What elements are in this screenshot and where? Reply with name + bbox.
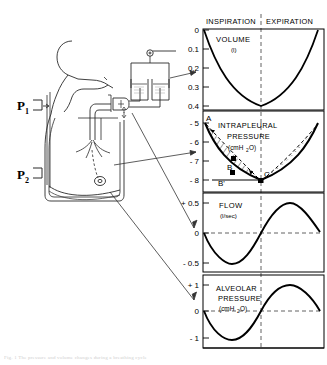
panel-intrapleural-title-1: INTRAPLEURAL xyxy=(218,121,277,130)
trachea-2 xyxy=(95,110,111,140)
panel-flow: + 0.5 0 - 0.5 FLOW (l/sec) xyxy=(181,193,324,272)
tick-label-v02: 0.2 xyxy=(188,64,200,73)
alveolus xyxy=(95,177,106,186)
panel-alveolar-pressure: + 1 0 - 1 ALVEOLAR PRESSURE (cmH 2 O) xyxy=(188,275,324,348)
tick-label-ip5: - 5 xyxy=(190,119,200,128)
p1-label: P xyxy=(17,98,25,113)
p2-bracket xyxy=(33,168,42,178)
tick-label-v03: 0.3 xyxy=(188,83,200,92)
tick-label-ip8: - 8 xyxy=(190,176,200,185)
diaphragm xyxy=(49,186,120,195)
mouth-airway xyxy=(108,95,111,112)
point-label-C: C xyxy=(264,170,270,179)
panel-volume-title: VOLUME xyxy=(216,35,250,44)
tick-label-ip6: - 6 xyxy=(190,138,200,147)
head-outline xyxy=(57,41,113,88)
tick-label-f05p: + 0.5 xyxy=(181,199,200,208)
expiratory-tube xyxy=(129,88,160,107)
tick-label-a1n: - 1 xyxy=(190,334,200,343)
p1-label-sub: 1 xyxy=(25,107,29,116)
point-label-A: A xyxy=(206,114,212,123)
tick-label-v0: 0 xyxy=(195,26,200,35)
no-resistance-pressure-line-exp xyxy=(262,124,318,180)
p1-bracket xyxy=(33,100,42,110)
alveolus-inner xyxy=(98,179,102,182)
p2-label: P xyxy=(17,167,25,182)
point-marker-B xyxy=(231,156,236,161)
spirometer-water-tank xyxy=(131,79,169,100)
pulley-axle xyxy=(149,52,151,54)
thorax-outline xyxy=(45,114,124,201)
panel-alveolar-units-end: O) xyxy=(240,305,247,313)
point-label-B: B xyxy=(227,163,232,172)
valve-assembly xyxy=(113,98,129,118)
tick-label-ip7: - 7 xyxy=(190,157,200,166)
alveolar-duct-dashed xyxy=(92,150,98,178)
pulley xyxy=(147,50,153,56)
panel-intrapleural-units-end: O) xyxy=(249,144,256,152)
panel-intrapleural-units: (cmH xyxy=(228,144,244,152)
panel-alveolar-units: (cmH xyxy=(219,305,235,313)
panel-volume: 0 0.1 0.2 0.3 0.4 VOLUME (l) xyxy=(188,26,324,111)
tick-label-v01: 0.1 xyxy=(188,45,200,54)
pleural-space-outline xyxy=(49,118,120,197)
panel-flow-units: (l/sec) xyxy=(220,212,237,219)
panel-alveolar-title-2: PRESSURE xyxy=(218,294,261,303)
body-diagram xyxy=(45,41,176,201)
respiratory-cycle-figure: P 1 P 2 INSPIRATION EXPIRATION xyxy=(0,0,327,365)
tick-label-f05n: - 0.5 xyxy=(183,259,200,268)
panel-intrapleural-pressure: - 5 - 6 - 7 - 8 INTRAPLEURAL PRESSURE (c… xyxy=(190,111,324,192)
arrow-thorax-to-intrapleural xyxy=(114,152,196,165)
panel-volume-units: (l) xyxy=(231,46,237,53)
expiration-label: EXPIRATION xyxy=(266,17,313,26)
tick-label-f0: 0 xyxy=(195,229,200,238)
face-chin-neck xyxy=(64,85,108,112)
panel-intrapleural-title-2: PRESSURE xyxy=(227,132,270,141)
arrow-valve-to-flow xyxy=(132,113,194,228)
water-hatch-left xyxy=(134,87,144,93)
point-label-Bp: B' xyxy=(218,179,225,188)
pressure-reference-scale xyxy=(33,92,50,188)
panel-stack: INSPIRATION EXPIRATION 0 0.1 0.2 0.3 0.4… xyxy=(181,14,324,348)
panel-alveolar-title-1: ALVEOLAR xyxy=(216,284,257,293)
panel-flow-title: FLOW xyxy=(219,201,243,210)
valve-arrow-down xyxy=(122,112,126,118)
neck-back xyxy=(51,75,68,114)
tick-label-a1p: + 1 xyxy=(188,281,200,290)
tick-label-a0: 0 xyxy=(195,307,200,316)
p2-label-sub: 2 xyxy=(25,176,29,185)
p1-tick-arrow xyxy=(43,104,49,108)
point-marker-C xyxy=(258,178,264,183)
arrow-alveolus-to-alveolar-pressure xyxy=(110,192,194,300)
trachea xyxy=(90,104,111,140)
tick-label-v04: 0.4 xyxy=(188,102,200,111)
figure-caption: Fig. 1 The pressure and volume changes d… xyxy=(4,355,189,365)
nose-mark xyxy=(104,77,107,80)
inspiration-label: INSPIRATION xyxy=(206,17,256,26)
